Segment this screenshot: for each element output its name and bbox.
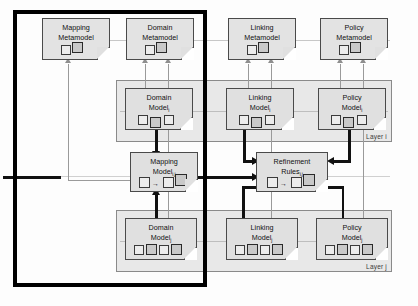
linking-metamodel-title: LinkingMetamodel [229,23,295,42]
page-fold-icon [373,117,386,130]
rule-arrow-icon: → [280,180,287,187]
page-fold-icon [285,247,298,260]
element-square [247,244,258,255]
linking-model-j-node[interactable]: LinkingModelj [226,218,298,260]
policy-metamodel-title: PolicyMetamodel [321,23,387,42]
policy-model-j-title: PolicyModelj [317,223,387,246]
element-square [267,177,278,188]
page-fold-icon [315,179,328,192]
linking-metamodel-node[interactable]: LinkingMetamodel [228,18,296,60]
element-square [272,244,283,255]
page-fold-icon [375,247,388,260]
element-square [362,244,373,255]
policy-model-i-node[interactable]: PolicyModeli [318,88,386,130]
element-square [339,45,349,55]
flow-refinement-to-policy-j-v [342,186,345,222]
element-square [350,42,361,53]
element-square [235,245,245,255]
flow-policy-i-to-refinement-v [348,130,351,161]
element-square [265,115,275,125]
element-square [251,117,262,128]
flow-policy-i-to-refinement-h [334,160,351,163]
element-square [350,245,360,255]
element-square [291,177,302,188]
element-square [239,115,249,125]
mapping-scope-highlight-frame [13,10,207,287]
layer-i-label: Layer i [366,133,387,140]
refinement-rules-node[interactable]: RefinementRulesi,j → [256,152,328,192]
element-square [303,174,315,186]
policy-model-i-title: PolicyModeli [319,93,385,116]
element-square [343,117,354,128]
flow-linking-i-to-refinement-v [243,130,246,161]
element-square [357,115,367,125]
policy-metamodel-node[interactable]: PolicyMetamodel [320,18,388,60]
policy-model-j-node[interactable]: PolicyModelj [316,218,388,260]
element-square [260,245,270,255]
page-fold-icon [281,117,294,130]
element-square [337,244,348,255]
element-square [247,45,257,55]
flow-arrowhead-policy-i-to-refinement [327,157,334,165]
linking-model-j-title: LinkingModelj [227,223,297,246]
diagram-canvas: Layer i Layer j [0,0,418,306]
page-fold-icon [283,47,296,60]
element-square [258,42,269,53]
linking-model-i-title: LinkingModeli [227,93,293,116]
flow-refinement-to-linking-j-v [242,186,245,222]
linking-model-i-node[interactable]: LinkingModeli [226,88,294,130]
page-fold-icon [375,47,388,60]
element-square [331,115,341,125]
element-square [325,245,335,255]
layer-j-label: Layer j [366,263,387,270]
